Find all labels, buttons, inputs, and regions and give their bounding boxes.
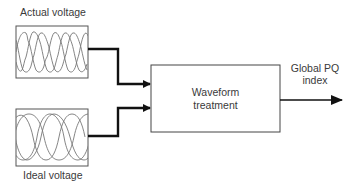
ideal-voltage-box (14, 109, 92, 166)
output-label-line1: Global PQ (284, 62, 346, 74)
treatment-label-line2: treatment (151, 99, 280, 112)
connector-actual-to-treatment (88, 49, 150, 84)
actual-voltage-box (16, 26, 92, 78)
actual-voltage-label: Actual voltage (20, 6, 86, 18)
ideal-voltage-label: Ideal voltage (23, 169, 83, 181)
connector-ideal-to-treatment (88, 108, 150, 136)
waveform-treatment-label: Waveform treatment (151, 86, 280, 112)
output-label-line2: index (284, 74, 346, 86)
treatment-label-line1: Waveform (151, 86, 280, 99)
global-pq-index-label: Global PQ index (284, 62, 346, 86)
